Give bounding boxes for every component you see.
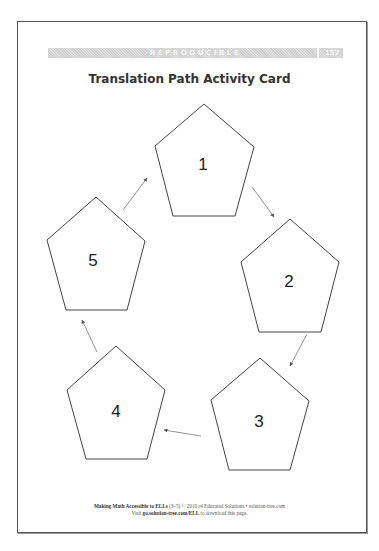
pentagon-3: 3 bbox=[211, 358, 309, 470]
pentagon-number: 2 bbox=[284, 272, 293, 291]
arrow-1-to-2-icon bbox=[252, 187, 274, 217]
visit-text: Visit bbox=[131, 510, 142, 516]
footer-line-1: Making Math Accessible to ELLs (3–5) © 2… bbox=[0, 503, 379, 510]
pentagon-2: 2 bbox=[241, 219, 339, 332]
pentagon-number: 1 bbox=[198, 155, 207, 174]
book-title: Making Math Accessible to ELLs bbox=[94, 503, 168, 509]
pentagon-number: 3 bbox=[254, 412, 263, 431]
arrow-4-to-5-icon bbox=[82, 320, 97, 352]
footer: Making Math Accessible to ELLs (3–5) © 2… bbox=[0, 503, 379, 517]
pentagon-number: 4 bbox=[111, 402, 120, 421]
footer-line-2: Visit go.solution-tree.com/ELL to downlo… bbox=[0, 510, 379, 517]
copyright-text: (3–5) © 2010 r4 Educated Solutions • sol… bbox=[168, 503, 285, 509]
pentagon-4: 4 bbox=[67, 346, 165, 459]
arrow-5-to-1-icon bbox=[123, 178, 147, 210]
download-text: to download this page. bbox=[199, 510, 247, 516]
download-link[interactable]: go.solution-tree.com/ELL bbox=[143, 510, 200, 516]
arrow-3-to-4-icon bbox=[164, 430, 201, 436]
pentagon-number: 5 bbox=[88, 251, 97, 270]
pentagon-1: 1 bbox=[155, 104, 254, 216]
translation-path-diagram: 12345 bbox=[0, 0, 379, 551]
arrow-2-to-3-icon bbox=[290, 334, 307, 366]
pentagon-5: 5 bbox=[47, 197, 145, 310]
